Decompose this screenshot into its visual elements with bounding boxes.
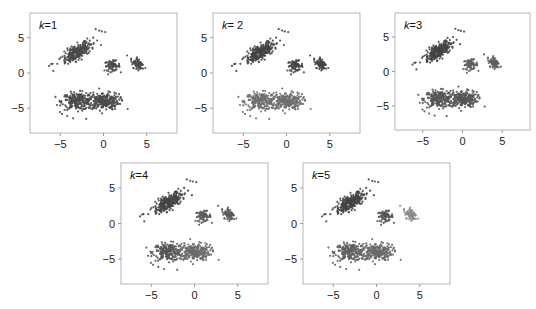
y-tick-label: 0 [18,67,24,79]
y-tick-label: 0 [109,218,115,230]
x-tick-label: 5 [235,289,241,301]
x-tick-label: 0 [373,289,379,301]
x-tick-label: 0 [459,135,465,147]
x-tick-label: 0 [100,138,106,150]
y-tick-label: −5 [194,102,207,114]
y-tick-label: 0 [201,67,207,79]
scatter-panel-k1: −50550−5k=1 [0,13,187,159]
scatter-panel-k4: −50550−5k=4 [91,163,278,309]
y-tick-label: −5 [11,102,24,114]
x-tick-label: 5 [327,138,333,150]
x-tick-label: 0 [283,138,289,150]
k-label: k=1 [39,19,57,31]
x-tick-label: −5 [145,289,158,301]
scatter-panel-k3: −50550−5k=3 [365,13,536,156]
plot-frame [213,13,360,133]
k-label: k=3 [404,19,422,31]
plot-frame [303,163,450,284]
scatter-panel-k5: −50550−5k=5 [273,163,460,309]
x-tick-label: 5 [417,289,423,301]
k-label: k=4 [130,169,148,181]
k-label: k=5 [312,169,330,181]
x-tick-label: 5 [144,138,150,150]
y-tick-label: −5 [102,253,115,265]
x-tick-label: 0 [191,289,197,301]
y-tick-label: 5 [18,32,24,44]
scatter-panel-k2: −50550−5k= 2 [183,13,370,159]
x-tick-label: −5 [417,135,430,147]
y-tick-label: 5 [201,32,207,44]
x-tick-label: −5 [327,289,340,301]
y-tick-label: 0 [383,66,389,78]
y-tick-label: −5 [376,100,389,112]
y-tick-label: −5 [284,253,297,265]
y-tick-label: 5 [291,182,297,194]
x-tick-label: −5 [237,138,250,150]
y-tick-label: 5 [109,182,115,194]
x-tick-label: 5 [499,135,505,147]
plot-frame [30,13,177,133]
x-tick-label: −5 [54,138,67,150]
plot-frame [121,163,268,284]
y-tick-label: 0 [291,218,297,230]
k-label: k= 2 [222,19,243,31]
y-tick-label: 5 [383,31,389,43]
